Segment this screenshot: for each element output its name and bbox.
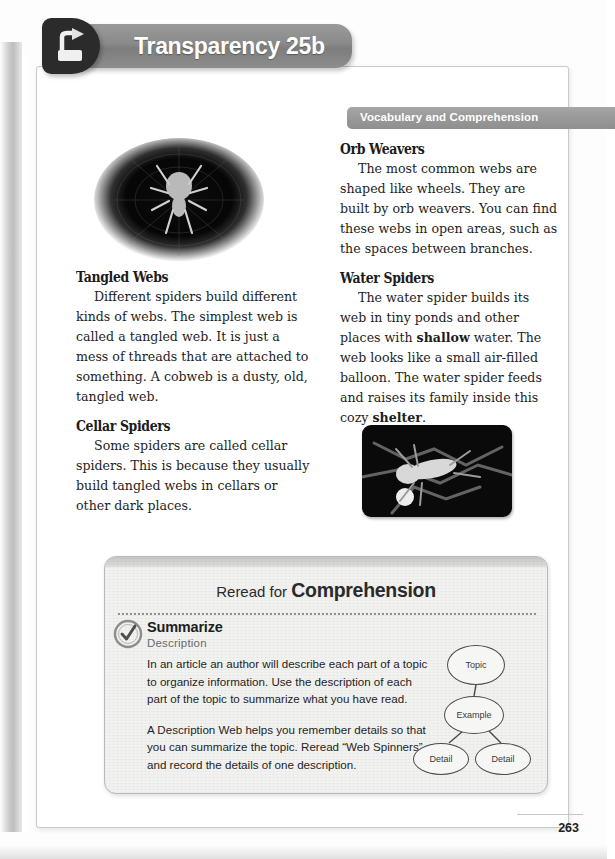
paragraph-water-spiders: The water spider builds its web in tiny … [340,288,558,428]
vocab-word-shallow: shallow [417,330,470,345]
panel-title-light: Reread for [216,583,287,600]
overhead-projector-icon [42,18,100,74]
web-node-detail-right: Detail [475,743,531,775]
web-node-detail-left: Detail [413,743,469,775]
section-heading-tangled-webs: Tangled Webs [76,268,281,285]
article-right-column: Orb Weavers The most common webs are sha… [340,140,558,438]
page-number: 263 [558,821,579,835]
paragraph-cellar-spiders: Some spiders are called cellar spiders. … [76,436,314,516]
panel-dotted-divider [117,613,537,615]
article-left-column: Tangled Webs Different spiders build dif… [76,140,314,526]
section-heading-cellar-spiders: Cellar Spiders [76,417,281,434]
transparency-banner: Transparency 25b [72,24,352,68]
water-text-3: . [422,410,426,425]
comprehension-body: In an article an author will describe ea… [147,655,431,773]
description-web-diagram: Topic Example Detail Detail [413,643,541,783]
vocabulary-ribbon-label: Vocabulary and Comprehension [360,111,538,123]
panel-title: Reread for Comprehension [105,579,547,602]
scan-edge-highlight [22,58,28,833]
panel-top-band [105,557,547,567]
web-node-topic: Topic [447,645,505,685]
footer-rule [517,814,583,815]
scan-edge-shadow [0,42,22,832]
paragraph-orb-weavers: The most common webs are shaped like whe… [340,159,558,259]
section-heading-orb-weavers: Orb Weavers [340,140,527,157]
scan-bottom-shadow [0,845,607,859]
reread-comprehension-panel: Reread for Comprehension Summarize Descr… [104,556,548,794]
section-heading-water-spiders: Water Spiders [340,269,527,286]
vocab-word-shelter: shelter [372,410,422,425]
vocabulary-ribbon: Vocabulary and Comprehension [347,107,615,129]
paragraph-tangled-webs: Different spiders build different kinds … [76,287,314,407]
water-spider-photo [362,425,512,517]
comprehension-paragraph-2: A Description Web helps you remember det… [147,721,431,774]
web-node-example: Example [444,696,504,734]
skill-name: Description [147,637,207,649]
banner-title: Transparency 25b [134,33,325,60]
strategy-name: Summarize [147,619,223,635]
panel-title-bold: Comprehension [291,579,436,601]
comprehension-paragraph-1: In an article an author will describe ea… [147,655,431,708]
strategy-check-badge-icon [113,619,143,649]
